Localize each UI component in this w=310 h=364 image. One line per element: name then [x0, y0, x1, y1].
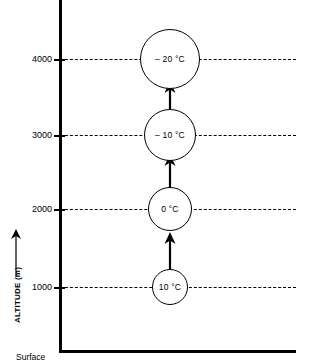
air-parcel-label-4000: – 20 °C: [155, 54, 185, 64]
air-parcel-2000: 0 °C: [148, 187, 192, 231]
tick-label-2000: 2000: [32, 204, 52, 214]
air-parcel-label-1000: 10 °C: [159, 282, 181, 292]
tick-label-1000: 1000: [32, 282, 52, 292]
tick-label-4000: 4000: [32, 54, 52, 64]
y-axis-title: ALTITUDE (m): [7, 227, 27, 323]
ascent-arrow-1000-2000: [162, 232, 178, 272]
y-axis-title-text: ALTITUDE (m): [13, 267, 22, 323]
air-parcel-4000: – 20 °C: [140, 29, 200, 89]
altitude-temperature-diagram: 4000 3000 2000 1000 – 20 °C – 10 °C 0 °C…: [0, 0, 310, 364]
tick-label-3000: 3000: [32, 130, 52, 140]
air-parcel-label-3000: – 10 °C: [155, 130, 185, 140]
surface-label: Surface: [16, 352, 45, 362]
air-parcel-label-2000: 0 °C: [161, 204, 178, 214]
air-parcel-3000: – 10 °C: [144, 109, 196, 161]
air-parcel-1000: 10 °C: [152, 269, 188, 305]
y-axis: [59, 0, 62, 353]
x-axis-surface-line: [59, 350, 296, 353]
